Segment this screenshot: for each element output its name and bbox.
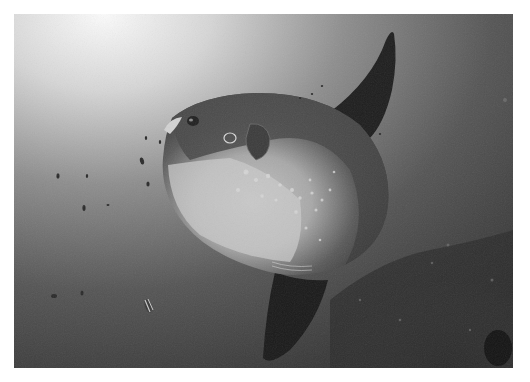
sunfish-photo-svg [14, 14, 513, 368]
photo: Ocean sunfish (Mola mola) swimming under… [14, 14, 513, 368]
